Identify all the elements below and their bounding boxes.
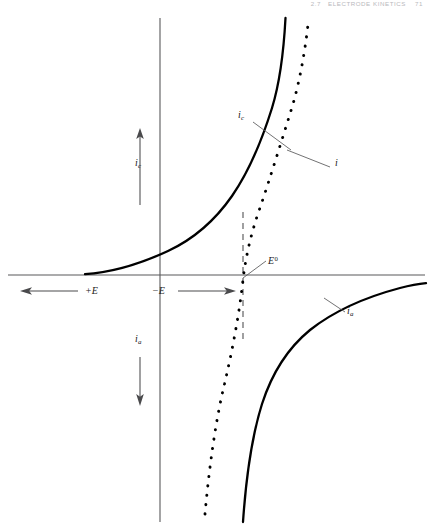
cathodic-current-curve [85,18,286,274]
net-curve-label: i [335,158,338,168]
cathodic-axis-label: ic [135,158,141,170]
figure-container: 2.7ELECTRODE KINETICS71 [0,0,429,532]
equilibrium-potential-label: E0 [268,256,278,266]
anodic-curve-label-subscript: a [350,310,354,318]
positive-potential-label: +E [85,286,98,296]
current-potential-plot [0,0,429,532]
cathodic-axis-label-subscript: c [138,162,141,170]
net-curve-label-symbol: i [335,157,338,168]
cathodic-curve-label-subscript: c [241,114,244,122]
positive-potential-arrow [20,287,78,295]
net-curve-leader-line [287,150,330,167]
anodic-curve-label: ia [347,306,354,318]
anodic-current-curve [243,283,426,522]
anodic-axis-label: ia [135,334,142,346]
negative-potential-label: −E [152,286,165,296]
cathodic-curve-label: ic [238,110,244,122]
equilibrium-potential-label-superscript: 0 [274,255,277,262]
anodic-axis-label-subscript: a [138,338,142,346]
anodic-direction-arrow [136,357,144,406]
net-current-curve [205,20,309,514]
positive-potential-label-text: +E [85,285,98,296]
anodic-curve-leader-line [324,298,345,312]
negative-potential-arrow [178,287,236,295]
negative-potential-label-text: −E [152,285,165,296]
